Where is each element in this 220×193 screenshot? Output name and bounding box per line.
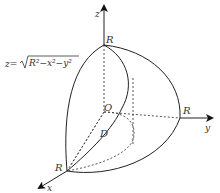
region-label: D <box>99 128 108 139</box>
z-axis-label: z <box>94 9 100 19</box>
r-left-label: R <box>54 162 63 173</box>
y-axis-hidden <box>104 112 180 118</box>
r-right-label: R <box>182 105 191 116</box>
y-axis-label: y <box>204 123 211 133</box>
surface-equation: z= R²−x²−y² <box>4 56 79 69</box>
x-axis <box>39 171 67 188</box>
x-axis-label: x <box>47 183 52 193</box>
r-top-label: R <box>105 34 114 45</box>
octant-sphere-diagram: z R O D R y R x z= R²−x²−y² <box>0 0 220 193</box>
equation-lhs: z= <box>4 59 17 69</box>
equation-radicand: R²−x²−y² <box>28 58 72 68</box>
intersection-curve <box>67 45 128 171</box>
origin-label: O <box>104 102 112 113</box>
sphere-meridian-yz <box>104 45 180 118</box>
sphere-equator <box>67 118 180 172</box>
